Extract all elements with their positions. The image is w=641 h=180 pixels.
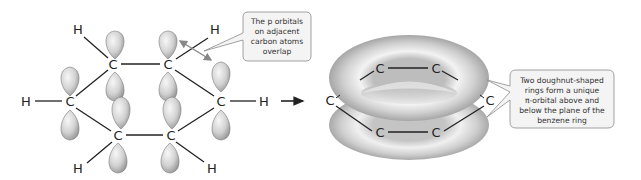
- callout-line: The p orbitals: [250, 17, 303, 26]
- carbon-atoms: C C C C C C: [65, 57, 225, 143]
- hydrogen-atom: H: [207, 161, 217, 176]
- hydrogen-atoms: H H H H H H: [21, 22, 269, 176]
- benzene-p-orbital-structure: C C C C C C H H H H H H: [21, 22, 269, 176]
- carbon-atom: C: [431, 125, 440, 140]
- callout-line: carbon atoms: [251, 37, 303, 46]
- carbon-atom: C: [485, 93, 494, 108]
- carbon-atom: C: [166, 128, 175, 143]
- callout-line: below the plane of the: [519, 106, 605, 115]
- callout-line: benzene ring: [537, 116, 587, 125]
- carbon-atom: C: [108, 57, 117, 72]
- callout-line: π-orbital above and: [525, 96, 599, 105]
- hydrogen-atom: H: [259, 94, 269, 109]
- callout-line: overlap: [263, 47, 292, 56]
- carbon-atom: C: [163, 57, 172, 72]
- hydrogen-atom: H: [73, 161, 83, 176]
- p-orbitals: [61, 31, 230, 173]
- callout-line: rings form a unique: [525, 86, 600, 95]
- carbon-atom: C: [325, 93, 334, 108]
- callout-line: on adjacent: [255, 27, 300, 36]
- carbon-atom: C: [216, 94, 225, 109]
- hydrogen-atom: H: [73, 22, 83, 37]
- carbon-atom: C: [65, 94, 74, 109]
- hydrogen-atom: H: [21, 94, 31, 109]
- benzene-orbital-diagram: C C C C C C H H H H H H The p orbitals o…: [0, 0, 641, 180]
- callout-p-orbital-overlap: The p orbitals on adjacent carbon atoms …: [204, 12, 311, 61]
- callout-line: Two doughnut-shaped: [519, 76, 604, 85]
- carbon-atom: C: [375, 61, 384, 76]
- pi-orbital-doughnuts: C C C C C C: [325, 35, 494, 160]
- callout-pi-orbital: Two doughnut-shaped rings form a unique …: [487, 70, 614, 128]
- carbon-atom: C: [431, 61, 440, 76]
- upper-pi-ring: [329, 35, 489, 121]
- hydrogen-atom: H: [210, 22, 220, 37]
- carbon-atom: C: [375, 125, 384, 140]
- carbon-atom: C: [113, 128, 122, 143]
- carbon-carbon-bonds: [76, 64, 214, 135]
